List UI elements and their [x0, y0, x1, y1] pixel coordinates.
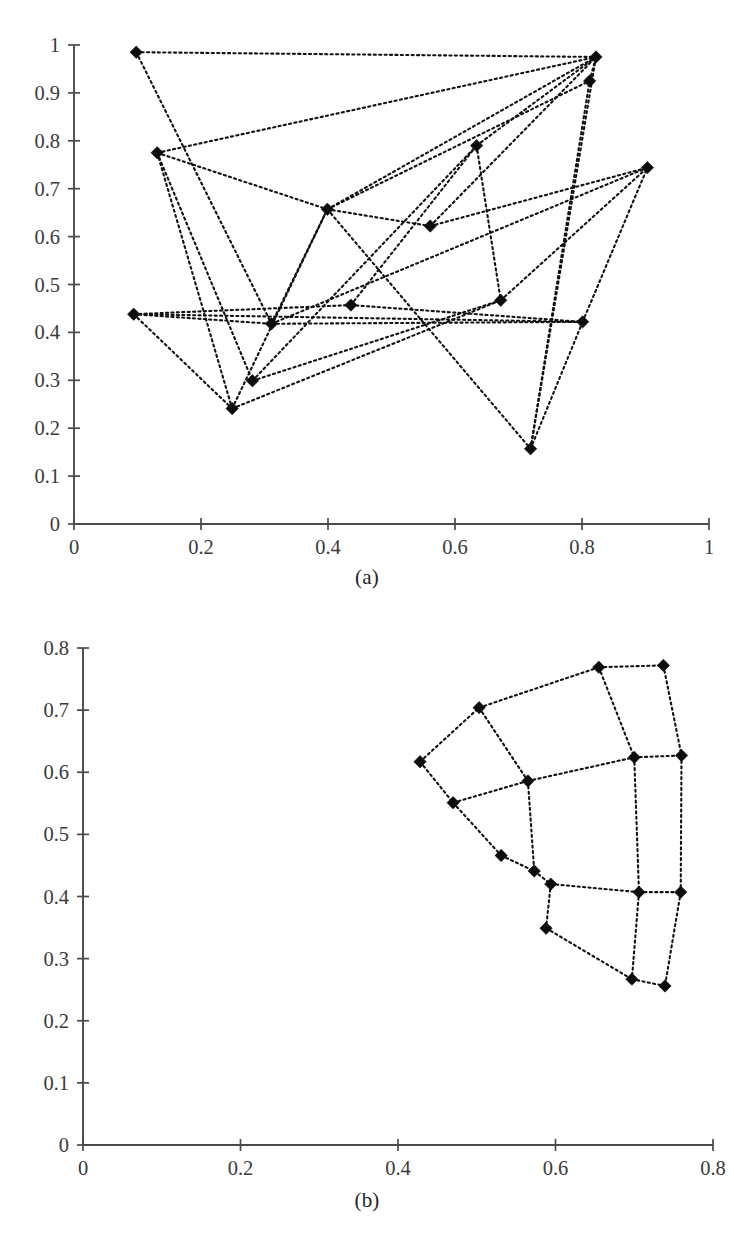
data-point-marker	[633, 886, 645, 898]
scatter-plot-a: 00.20.40.60.8100.10.20.30.40.50.60.70.80…	[0, 0, 734, 620]
x-tick-label: 0.8	[700, 1157, 726, 1179]
mesh-edge	[157, 153, 232, 409]
y-tick-label: 0.8	[34, 130, 60, 152]
y-tick-label: 0.8	[43, 637, 69, 659]
mesh-edge	[477, 146, 501, 301]
mesh-edge	[453, 781, 528, 803]
x-tick-label: 0.4	[315, 536, 341, 558]
data-point-marker	[626, 973, 638, 985]
figure-panel-b: 00.20.40.60.800.10.20.30.40.50.60.70.8	[0, 600, 734, 1247]
x-tick-label: 0.6	[543, 1157, 569, 1179]
data-point-marker	[659, 980, 671, 992]
mesh-edge	[327, 57, 596, 209]
y-tick-label: 0.9	[34, 82, 60, 104]
mesh-edge	[501, 855, 534, 871]
data-points	[127, 46, 653, 455]
mesh-edge	[136, 52, 271, 324]
mesh-edge	[546, 884, 551, 928]
y-tick-label: 0.5	[43, 823, 69, 845]
scatter-plot-b: 00.20.40.60.800.10.20.30.40.50.60.70.8	[0, 600, 734, 1247]
data-point-marker	[545, 878, 557, 890]
mesh-edge	[134, 314, 272, 324]
mesh-edge	[351, 305, 583, 322]
x-tick-label: 0.4	[385, 1157, 411, 1179]
mesh-edges	[420, 665, 681, 986]
x-tick-label: 0.2	[188, 536, 214, 558]
mesh-edge	[327, 81, 589, 209]
y-tick-label: 0.4	[43, 886, 69, 908]
mesh-edge	[599, 665, 664, 667]
data-points	[414, 659, 688, 992]
x-tick-label: 0.2	[228, 1157, 254, 1179]
x-tick-label: 1	[704, 536, 714, 558]
axes	[83, 648, 713, 1145]
y-tick-label: 0.1	[34, 465, 60, 487]
x-tick-label: 0	[69, 536, 79, 558]
mesh-edge	[479, 667, 599, 707]
data-point-marker	[540, 922, 552, 934]
mesh-edge	[136, 52, 596, 57]
mesh-edge	[634, 755, 681, 757]
mesh-edge	[528, 781, 534, 871]
y-tick-label: 0.2	[34, 417, 60, 439]
mesh-edge	[663, 665, 681, 755]
mesh-edge	[157, 153, 252, 381]
mesh-edge	[551, 884, 639, 892]
y-tick-label: 0	[59, 1134, 69, 1156]
y-tick-label: 0.3	[34, 369, 60, 391]
x-tick-label: 0	[78, 1157, 88, 1179]
y-tick-label: 0.6	[34, 226, 60, 248]
panel-caption-b: (b)	[0, 1188, 734, 1213]
mesh-edge	[430, 57, 596, 226]
y-tick-label: 0.5	[34, 274, 60, 296]
x-tick-label: 0.6	[442, 536, 468, 558]
mesh-edge	[453, 803, 501, 856]
data-point-marker	[473, 701, 485, 713]
y-tick-label: 1	[50, 34, 60, 56]
mesh-edge	[531, 57, 596, 449]
data-point-marker	[675, 749, 687, 761]
y-tick-label: 0.1	[43, 1072, 69, 1094]
mesh-edge	[634, 757, 639, 892]
data-point-marker	[583, 75, 595, 87]
mesh-edge	[351, 146, 477, 306]
mesh-edge	[632, 892, 639, 979]
mesh-edge	[232, 300, 501, 408]
y-tick-label: 0.6	[43, 761, 69, 783]
mesh-edge	[531, 322, 583, 449]
mesh-edge	[327, 209, 530, 449]
data-point-marker	[628, 751, 640, 763]
data-point-marker	[593, 661, 605, 673]
mesh-edge	[479, 708, 528, 781]
mesh-edge	[420, 762, 453, 803]
mesh-edges	[134, 52, 648, 449]
data-point-marker	[675, 886, 687, 898]
figure-panel-a: 00.20.40.60.8100.10.20.30.40.50.60.70.80…	[0, 0, 734, 620]
y-tick-label: 0.7	[34, 178, 60, 200]
mesh-edge	[134, 305, 351, 314]
mesh-edge	[599, 667, 634, 757]
mesh-edge	[420, 708, 479, 762]
panel-caption-a: (a)	[0, 565, 734, 590]
mesh-edge	[157, 153, 327, 210]
data-point-marker	[522, 775, 534, 787]
y-tick-label: 0	[50, 513, 60, 535]
data-point-marker	[576, 316, 588, 328]
mesh-edge	[528, 757, 634, 781]
data-point-marker	[130, 46, 142, 58]
data-point-marker	[657, 659, 669, 671]
mesh-edge	[546, 928, 632, 979]
data-point-marker	[151, 147, 163, 159]
x-tick-label: 0.8	[569, 536, 595, 558]
y-tick-label: 0.2	[43, 1010, 69, 1032]
mesh-edge	[665, 892, 681, 986]
y-tick-label: 0.4	[34, 321, 60, 343]
y-tick-label: 0.3	[43, 948, 69, 970]
mesh-edge	[681, 755, 682, 892]
y-tick-label: 0.7	[43, 699, 69, 721]
